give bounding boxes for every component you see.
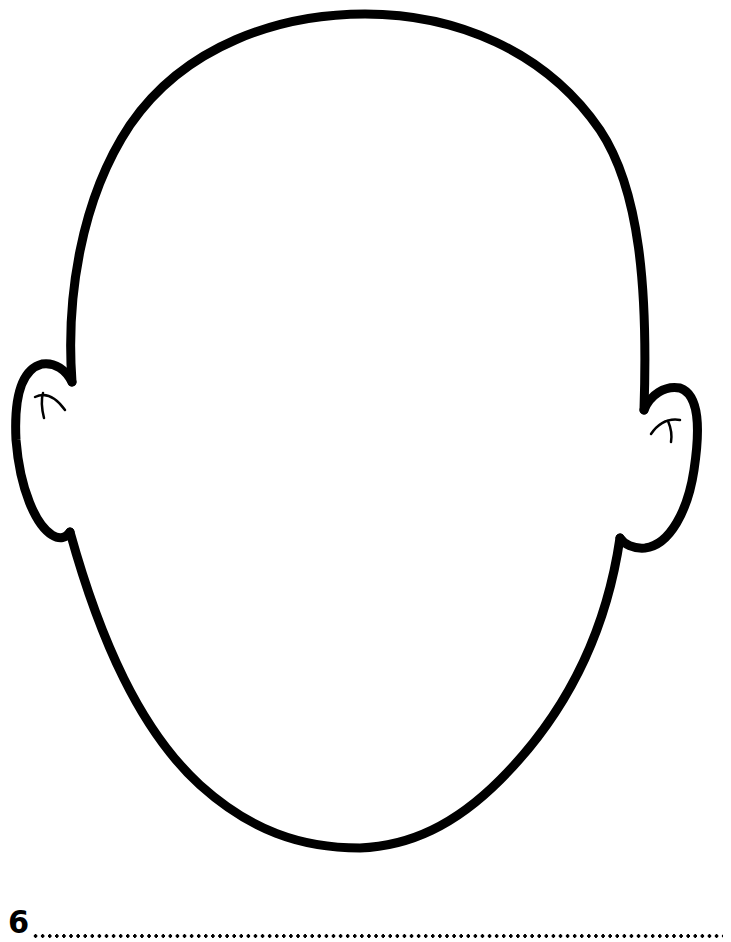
right-inner-ear-stem-icon (668, 421, 671, 442)
worksheet-page: 6 (0, 0, 731, 942)
question-number: 6 (8, 906, 28, 938)
answer-line[interactable] (32, 934, 723, 938)
left-ear-icon (16, 364, 72, 538)
right-inner-ear-icon (651, 420, 680, 434)
right-ear-icon (620, 387, 697, 548)
answer-row: 6 (8, 904, 723, 940)
blank-face-outline (0, 0, 731, 942)
left-inner-ear-icon (35, 395, 65, 410)
head-outline-icon (71, 14, 645, 410)
left-inner-ear-stem-icon (42, 393, 44, 418)
jaw-outline-icon (70, 532, 620, 848)
